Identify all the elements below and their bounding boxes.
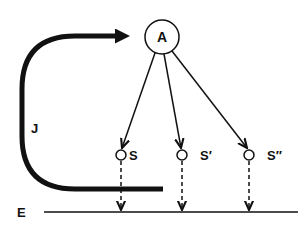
node-s-prime-label: S′ <box>200 148 212 163</box>
baseline-label: E <box>17 205 26 220</box>
node-s: S <box>116 148 138 163</box>
node-s-label: S <box>129 148 138 163</box>
node-s-prime: S′ <box>177 148 212 163</box>
diagram: J A S S′ S″ E <box>0 0 307 226</box>
node-s-double-prime: S″ <box>244 148 282 163</box>
node-s-double-prime-label: S″ <box>267 148 282 163</box>
arrow-a-to-s-double-prime <box>172 51 247 148</box>
node-a-label: A <box>157 29 167 45</box>
arrow-a-to-s <box>122 53 155 148</box>
loop-label: J <box>31 121 38 136</box>
arrow-a-to-s-prime <box>164 54 181 148</box>
loop-arrow-j <box>22 36 163 189</box>
node-a: A <box>145 20 179 54</box>
